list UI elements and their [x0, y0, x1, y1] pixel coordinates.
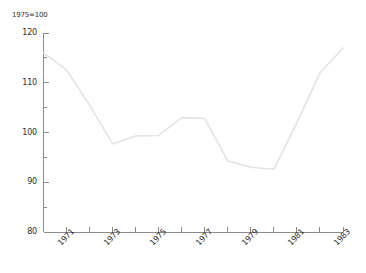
y-axis-tick-label: 100: [11, 128, 37, 137]
y-axis-tick-label: 80: [11, 227, 37, 236]
series-line-index: [44, 48, 344, 169]
line-chart: 1975=100 8090100110120 19711973197519771…: [0, 0, 366, 273]
y-axis-tick-label: 120: [11, 28, 37, 37]
plot-area: [0, 0, 366, 273]
y-axis-tick-label: 110: [11, 78, 37, 87]
y-axis-tick-label: 90: [11, 177, 37, 186]
axes: [44, 33, 344, 232]
data-series-line: [44, 48, 344, 169]
